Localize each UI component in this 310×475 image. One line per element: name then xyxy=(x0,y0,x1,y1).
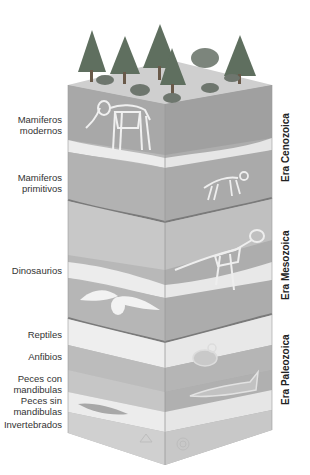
bush-icon xyxy=(130,84,150,96)
label-reptiles: Reptiles xyxy=(28,329,62,340)
bush-icon xyxy=(96,75,114,85)
label-mamiferos-modernos: Mamiferos modernos xyxy=(18,114,62,136)
era-label-cenozoica: Era Cenozoica xyxy=(280,113,291,182)
label-peces-sin-mandibulas: Peces sin mandibulas xyxy=(13,395,62,417)
label-mamiferos-primitivos: Mamiferos primitivos xyxy=(18,172,62,194)
label-dinosaurios: Dinosaurios xyxy=(12,265,62,276)
era-label-mesozoica: Era Mesozoica xyxy=(280,231,291,300)
label-anfibios: Anfibios xyxy=(28,351,62,362)
geologic-column-diagram: Mamiferos modernos Mamiferos primitivos … xyxy=(0,0,310,475)
label-peces-con-mandibulas: Peces con mandibulas xyxy=(13,373,62,395)
bush-icon xyxy=(224,74,240,82)
era-label-paleozoica: Era Paleozoica xyxy=(280,334,291,405)
bush-icon xyxy=(191,48,219,68)
bush-icon xyxy=(201,83,219,93)
bush-icon xyxy=(163,93,181,103)
label-invertebrados: Invertebrados xyxy=(4,419,62,430)
pine-tree-icon xyxy=(78,30,106,82)
